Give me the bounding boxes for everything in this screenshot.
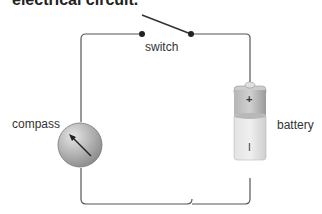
compass (58, 123, 102, 167)
circuit-diagram (0, 0, 322, 214)
battery-positive-mark: + (246, 93, 252, 105)
wire (81, 34, 250, 204)
battery-label: battery (277, 118, 314, 132)
switch (139, 15, 194, 37)
battery-negative-mark: I (248, 142, 251, 153)
compass-label: compass (12, 117, 60, 131)
switch-label: switch (145, 40, 178, 54)
